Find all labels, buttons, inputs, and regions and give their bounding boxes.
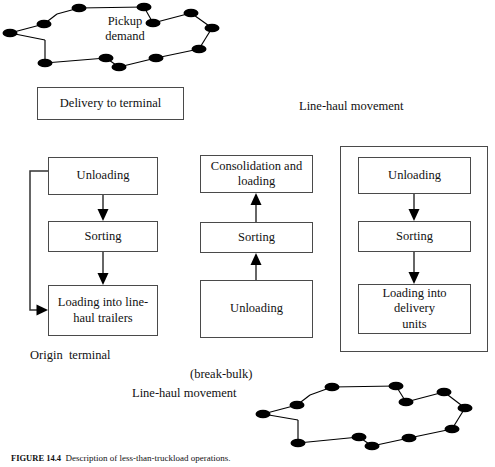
delivery-network-nodes: [256, 382, 473, 451]
figure-caption-label: FIGURE 14.4: [11, 453, 61, 463]
figure-caption: FIGURE 14.4 Description of less-than-tru…: [2, 443, 231, 467]
figure-caption-text: Description of less-than-truckload opera…: [61, 453, 230, 463]
